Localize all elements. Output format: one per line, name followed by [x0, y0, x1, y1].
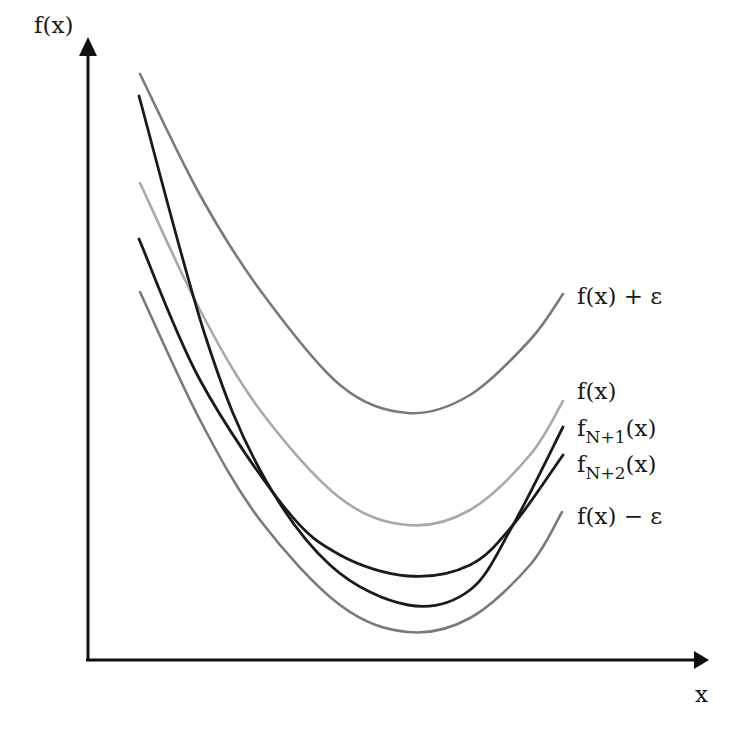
- curves-group: [139, 74, 563, 633]
- fN2-tail: (x): [625, 451, 656, 477]
- x-axis-arrow-icon: [694, 651, 709, 669]
- fN1-subscript: N+1: [586, 427, 626, 447]
- curve-label-f: f(x): [577, 380, 616, 403]
- curve-fN1: [139, 96, 563, 606]
- y-axis-label: f(x): [34, 14, 73, 37]
- diagram-canvas: [0, 0, 742, 739]
- fN1-base: f: [577, 415, 586, 441]
- fN1-tail: (x): [625, 415, 656, 441]
- convergence-diagram: f(x) x f(x) + ε f(x) fN+1(x) fN+2(x) f(x…: [0, 0, 742, 739]
- curve-label-fN2: fN+2(x): [577, 453, 656, 476]
- fN2-base: f: [577, 451, 586, 477]
- y-axis-arrow-icon: [79, 37, 97, 56]
- x-axis-label: x: [695, 683, 708, 706]
- curve-f-plus-eps: [140, 74, 563, 413]
- curve-label-fN1: fN+1(x): [577, 417, 656, 440]
- curve-fN2: [139, 239, 563, 576]
- curve-label-f-plus-eps: f(x) + ε: [577, 285, 662, 308]
- curve-f: [140, 183, 563, 525]
- fN2-subscript: N+2: [586, 463, 626, 483]
- curve-label-f-minus-eps: f(x) − ε: [577, 505, 662, 528]
